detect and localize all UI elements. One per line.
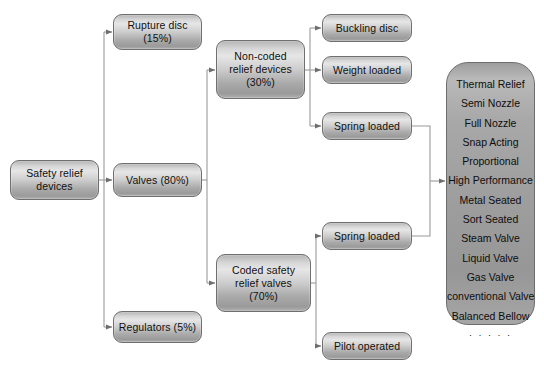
valve-type-continuation: · · · · ·: [447, 326, 534, 345]
node-label-line: (70%): [232, 290, 295, 303]
valve-type-item: High Performance: [447, 171, 534, 190]
valve-type-item: conventional Valve: [447, 287, 534, 306]
node-label-line: (15%): [127, 32, 187, 45]
valve-type-item: Full Nozzle: [447, 114, 534, 133]
valve-type-item: Sort Seated: [447, 210, 534, 229]
valve-type-item: Snap Acting: [447, 133, 534, 152]
valve-type-item: Liquid Valve: [447, 249, 534, 268]
node-spring-loaded-bottom[interactable]: Spring loaded: [322, 222, 412, 250]
node-coded-safety-relief-valves[interactable]: Coded safety relief valves (70%): [216, 254, 311, 312]
node-label-line: Regulators (5%): [119, 321, 196, 334]
node-weight-loaded[interactable]: Weight loaded: [322, 56, 412, 84]
node-label-line: Spring loaded: [334, 230, 400, 243]
node-label-line: Safety relief: [26, 167, 83, 180]
node-rupture-disc[interactable]: Rupture disc (15%): [113, 14, 202, 50]
node-label-line: Pilot operated: [334, 340, 400, 353]
node-valves[interactable]: Valves (80%): [113, 163, 202, 197]
valve-types-panel[interactable]: Thermal Relief Semi Nozzle Full Nozzle S…: [446, 62, 535, 325]
node-label-line: devices: [26, 180, 83, 193]
valve-type-item: Metal Seated: [447, 191, 534, 210]
node-label-line: Weight loaded: [333, 64, 401, 77]
node-label-line: relief valves: [232, 277, 295, 290]
node-label-line: Rupture disc: [127, 19, 187, 32]
node-pilot-operated[interactable]: Pilot operated: [322, 332, 412, 360]
node-regulators[interactable]: Regulators (5%): [113, 311, 202, 343]
valve-type-item: Gas Valve: [447, 268, 534, 287]
node-label-line: Buckling disc: [336, 22, 399, 35]
wire-springs-merge: [412, 126, 430, 236]
node-label-line: relief devices: [229, 63, 292, 76]
node-label-line: Spring loaded: [334, 120, 400, 133]
node-label-line: (30%): [229, 76, 292, 89]
valve-type-item: Balanced Bellow: [447, 307, 534, 326]
valve-type-item: Steam Valve: [447, 229, 534, 248]
valve-type-item: Semi Nozzle: [447, 94, 534, 113]
node-label-line: Coded safety: [232, 264, 295, 277]
diagram-canvas: Safety relief devices Rupture disc (15%)…: [0, 0, 544, 372]
valve-type-item: Proportional: [447, 152, 534, 171]
node-buckling-disc[interactable]: Buckling disc: [322, 14, 412, 42]
node-non-coded-relief-devices[interactable]: Non-coded relief devices (30%): [216, 40, 305, 99]
valve-type-item: Thermal Relief: [447, 75, 534, 94]
node-spring-loaded-top[interactable]: Spring loaded: [322, 112, 412, 140]
node-label-line: Valves (80%): [126, 174, 189, 187]
node-label-line: Non-coded: [229, 50, 292, 63]
node-safety-relief-devices[interactable]: Safety relief devices: [10, 160, 99, 200]
